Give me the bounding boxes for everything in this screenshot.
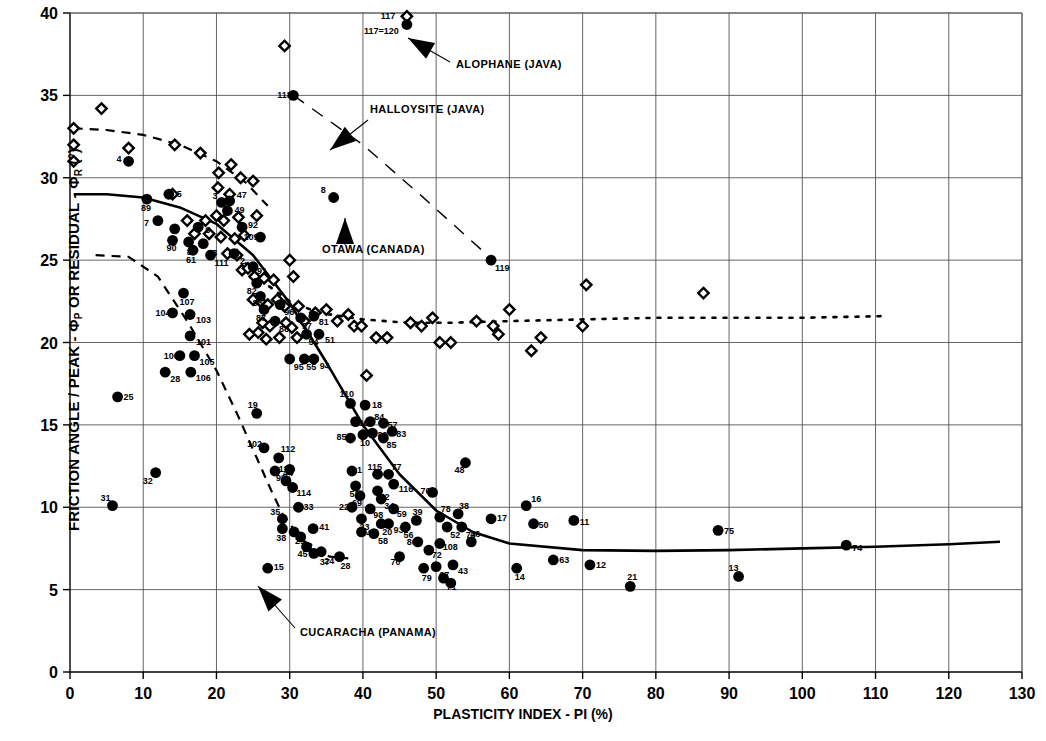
data-point-label: 2 [240, 256, 245, 266]
data-point-diamond [577, 321, 587, 331]
data-point-label: 101 [196, 337, 211, 347]
data-point-label: 119 [495, 263, 510, 273]
data-point-label: 70 [391, 557, 401, 567]
data-point-circle [163, 189, 174, 200]
y-axis-title-part1: FRICTION ANGLE / PEAK - [65, 332, 82, 531]
x-tick-label: 20 [208, 685, 226, 702]
data-point-label: 108 [443, 542, 458, 552]
data-point-label: 105 [199, 357, 214, 367]
data-point-label: 39 [412, 507, 422, 517]
tick-labels: 0510152025303540010203040506070809010011… [40, 5, 1035, 702]
data-point-circle [224, 195, 235, 206]
data-point-diamond [698, 288, 708, 298]
data-point-diamond [279, 41, 289, 51]
data-point-diamond [292, 332, 302, 342]
data-point-label: 106 [196, 373, 211, 383]
data-point-label: 82 [247, 286, 257, 296]
data-point-circle [401, 19, 412, 30]
data-point-label: 5 [177, 189, 182, 199]
annotation-label-halloysite: HALLOYSITE (JAVA) [370, 103, 485, 115]
grid-lines [70, 13, 1022, 672]
x-tick-label: 90 [720, 685, 738, 702]
phi-p-subscript: P [73, 312, 84, 319]
data-point-label: 80 [407, 537, 417, 547]
data-point-circle [356, 527, 367, 538]
data-point-label: 10 [360, 438, 370, 448]
trend-curves [74, 95, 1000, 558]
data-point-label: 44 [283, 468, 293, 478]
curve-lower-residual-envelope-dashed [96, 255, 349, 558]
data-point-diamond [216, 232, 226, 242]
data-point-circle [345, 398, 356, 409]
data-point-label: 7 [144, 218, 149, 228]
x-tick-label: 0 [66, 685, 75, 702]
data-point-label: 41 [319, 522, 329, 532]
data-point-label: 38 [276, 533, 286, 543]
x-tick-label: 130 [1009, 685, 1036, 702]
x-tick-label: 30 [281, 685, 299, 702]
data-point-circle [360, 400, 371, 411]
data-point-label: 94 [320, 361, 330, 371]
data-point-circle [383, 518, 394, 529]
data-point-circle [713, 525, 724, 536]
data-point-label: 88 [279, 324, 289, 334]
annotation-arrowhead-alophane [408, 38, 435, 59]
y-tick-label: 15 [40, 417, 58, 434]
phi-p-symbol: Φ [65, 319, 82, 332]
data-point-diamond [284, 255, 294, 265]
data-point-circle [388, 479, 399, 490]
data-point-diamond [123, 143, 133, 153]
data-point-circle [418, 563, 429, 574]
y-tick-label: 10 [40, 499, 58, 516]
y-axis-title-part2: OR RESIDUAL - [65, 189, 82, 313]
data-point-circle [314, 329, 325, 340]
x-tick-label: 70 [574, 685, 592, 702]
data-point-circle [185, 309, 196, 320]
data-point-label: 19 [248, 400, 258, 410]
data-point-label: 28 [170, 374, 180, 384]
curve-residual-strength-envelope-dotted [238, 255, 883, 323]
data-point-label: 35 [270, 507, 280, 517]
x-tick-label: 80 [647, 685, 665, 702]
data-point-circle [229, 248, 240, 259]
data-point-circle [841, 540, 852, 551]
figure-container: 0510152025303540010203040506070809010011… [0, 0, 1046, 741]
data-point-label: 28 [340, 561, 350, 571]
data-point-label: 85 [336, 432, 346, 442]
y-tick-label: 40 [40, 5, 58, 22]
data-point-diamond [526, 346, 536, 356]
data-point-diamond [371, 332, 381, 342]
data-point-label: 81 [319, 317, 329, 327]
data-point-circle [293, 502, 304, 513]
curve-halloysite-java-line [293, 95, 491, 258]
data-point-label: 31 [100, 493, 110, 503]
annotation-label-alophane: ALOPHANE (JAVA) [456, 58, 562, 70]
data-point-label: 16 [531, 494, 541, 504]
data-point-label: 78 [441, 504, 451, 514]
x-axis-title: PLASTICITY INDEX - PI (%) [0, 706, 1046, 722]
data-point-label: 87 [256, 313, 266, 323]
data-point-circle [152, 215, 163, 226]
annotation-arrowhead-halloysite [330, 127, 356, 150]
annotation-arrowhead-otawa [336, 218, 354, 244]
data-point-circle [160, 367, 171, 378]
data-point-label: 116 [399, 484, 414, 494]
data-point-label: 38 [459, 501, 469, 511]
data-point-diamond [446, 337, 456, 347]
data-point-circle [585, 560, 596, 571]
data-point-label: 32 [143, 476, 153, 486]
x-tick-label: 50 [427, 685, 445, 702]
data-point-diamond [405, 318, 415, 328]
y-axis-title-part3: (°) [65, 148, 82, 169]
data-point-label: 49 [234, 205, 244, 215]
data-point-circle [189, 350, 200, 361]
phi-r-symbol: Φ [65, 176, 82, 189]
y-tick-label: 20 [40, 335, 58, 352]
data-point-label: 102 [247, 439, 262, 449]
data-point-label: 59 [397, 509, 407, 519]
x-tick-label: 40 [354, 685, 372, 702]
data-point-label: 46 [470, 529, 480, 539]
data-point-label: 58 [378, 536, 388, 546]
data-point-circle [548, 555, 559, 566]
data-point-label: 96 [284, 307, 294, 317]
